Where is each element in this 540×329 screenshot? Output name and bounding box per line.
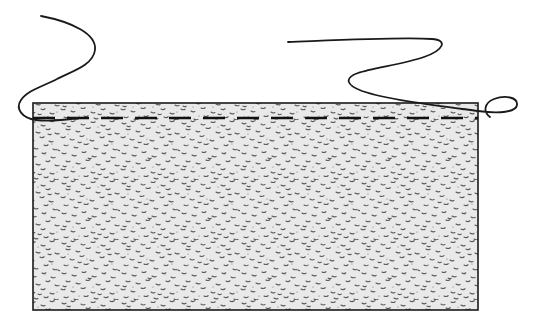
soil-block-group — [33, 103, 478, 310]
soil-cross-section-figure — [0, 0, 540, 329]
figure-canvas — [0, 0, 540, 329]
soil-block-fill — [33, 103, 478, 310]
